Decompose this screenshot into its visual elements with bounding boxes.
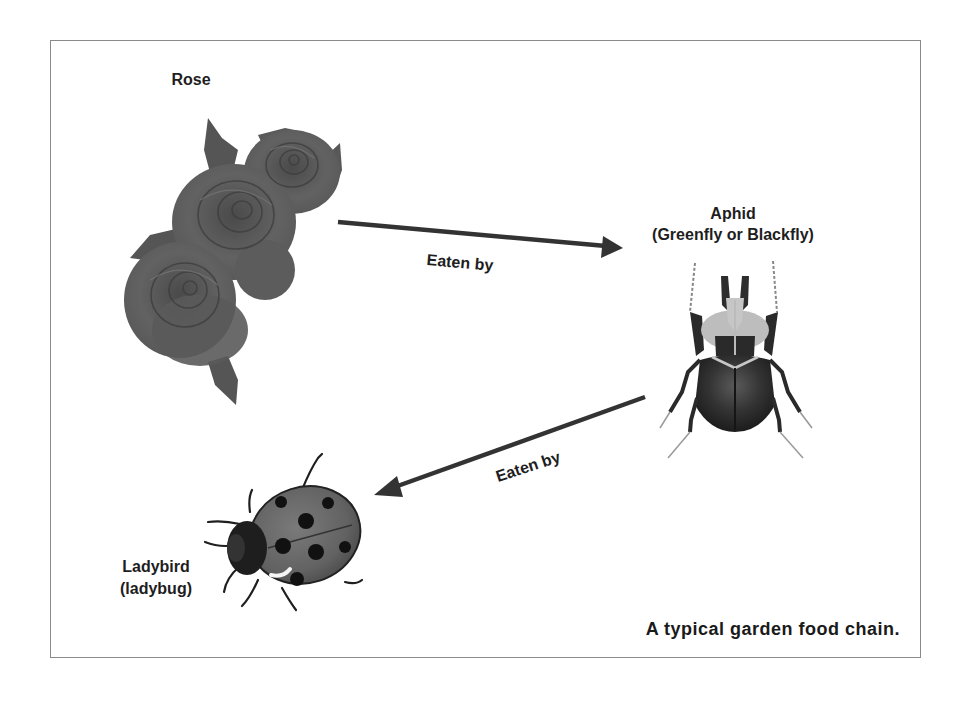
- ladybird-label: Ladybird: [106, 557, 206, 576]
- rose-label: Rose: [152, 70, 230, 89]
- arrow-rose-to-aphid: [338, 222, 623, 258]
- aphid-label: Aphid: [640, 204, 826, 223]
- figure-caption: A typical garden food chain.: [646, 619, 900, 640]
- aphid-sublabel: (Greenfly or Blackfly): [636, 225, 830, 244]
- beetle-icon: [660, 261, 812, 458]
- rose-icon: [124, 118, 342, 405]
- ladybird-sublabel: (ladybug): [106, 579, 206, 598]
- ladybug-icon: [205, 454, 373, 610]
- food-chain-art: [0, 0, 976, 705]
